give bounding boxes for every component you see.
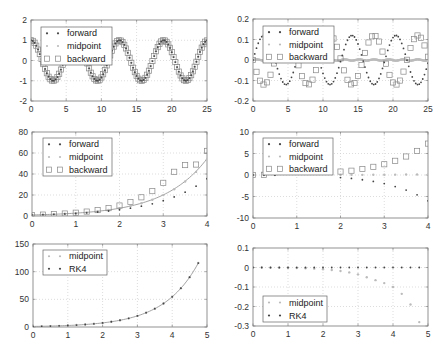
y-tick-label: 20 <box>19 190 29 200</box>
legend-label: midpoint <box>69 251 104 261</box>
y-tick-label: 0 <box>244 263 249 273</box>
x-tick-label: 2 <box>321 329 326 339</box>
y-tick-label: 0.1 <box>237 243 249 253</box>
x-tick-label: 0 <box>31 330 36 340</box>
y-tick-label: 0 <box>23 211 28 221</box>
legend: midpointRK4 <box>43 250 107 275</box>
x-tick-label: 0 <box>251 221 256 231</box>
y-tick-label: 1 <box>22 35 27 45</box>
legend-label: forward <box>289 27 319 37</box>
x-tick-label: 4 <box>391 329 396 339</box>
legend-label: midpoint <box>67 41 102 51</box>
y-tick-label: -5 <box>241 192 249 202</box>
x-tick-label: 0 <box>251 104 256 114</box>
x-tick-label: 5 <box>426 329 431 339</box>
x-tick-label: 3 <box>356 329 361 339</box>
y-tick-label: 10 <box>240 127 250 137</box>
x-tick-label: 4 <box>170 330 175 340</box>
y-tick-label: -0.1 <box>234 76 249 86</box>
legend-label: RK4 <box>69 264 87 274</box>
x-tick-label: 5 <box>64 104 69 114</box>
subplot-exponential-errors: 01234-10-50510forwardmidpointbackward <box>237 127 431 231</box>
y-tick-label: 50 <box>20 294 30 304</box>
legend-label: midpoint <box>289 298 324 308</box>
y-tick-label: 0 <box>244 170 249 180</box>
subplot-midpoint-rk4-errors: 012345-0.3-0.2-0.100.1midpointRK4 <box>234 243 430 339</box>
x-tick-label: 3 <box>382 221 387 231</box>
legend-label: forward <box>289 139 319 149</box>
x-tick-label: 25 <box>423 104 433 114</box>
x-tick-label: 3 <box>161 219 166 229</box>
legend-label: backward <box>69 165 108 175</box>
y-tick-label: 60 <box>19 148 29 158</box>
x-tick-label: 25 <box>202 104 212 114</box>
x-tick-label: 3 <box>135 330 140 340</box>
series-forward <box>252 174 429 202</box>
y-tick-label: 100 <box>15 267 29 277</box>
x-tick-label: 0 <box>29 104 34 114</box>
y-tick-label: -0.2 <box>234 302 249 312</box>
y-tick-label: -2 <box>19 96 27 106</box>
x-tick-label: 4 <box>205 219 210 229</box>
y-tick-label: 40 <box>19 169 29 179</box>
x-tick-label: 10 <box>97 104 107 114</box>
y-tick-label: -0.1 <box>234 282 249 292</box>
y-tick-label: 0.1 <box>237 35 249 45</box>
legend-label: RK4 <box>289 311 307 321</box>
x-tick-label: 2 <box>100 330 105 340</box>
subplot-oscillator-solutions: 0510152025-2-1012forwardmidpointbackward <box>19 15 212 114</box>
legend-label: backward <box>289 52 328 62</box>
legend-label: forward <box>69 139 99 149</box>
x-tick-label: 0 <box>251 329 256 339</box>
y-tick-label: 2 <box>22 15 27 25</box>
x-tick-label: 1 <box>73 219 78 229</box>
y-tick-label: 150 <box>15 239 29 249</box>
x-tick-label: 10 <box>318 104 328 114</box>
legend-label: midpoint <box>69 152 104 162</box>
legend-label: midpoint <box>289 40 324 50</box>
x-tick-label: 20 <box>167 104 177 114</box>
legend-label: backward <box>289 164 328 174</box>
y-tick-label: 80 <box>19 127 29 137</box>
subplot-exponential-solutions: 01234020406080forwardmidpointbackward <box>19 127 210 229</box>
y-tick-label: 0.2 <box>237 14 249 24</box>
x-tick-label: 2 <box>338 221 343 231</box>
legend: midpointRK4 <box>263 296 327 322</box>
legend-label: forward <box>67 28 97 38</box>
x-tick-label: 2 <box>117 219 122 229</box>
x-tick-label: 5 <box>205 330 210 340</box>
legend-label: backward <box>67 54 106 64</box>
y-tick-label: -0.2 <box>234 96 249 106</box>
subplot-midpoint-rk4-solutions: 012345050100150midpointRK4 <box>15 239 210 340</box>
tick-labels: 012345-0.3-0.2-0.100.1 <box>234 243 430 339</box>
x-tick-label: 4 <box>426 221 431 231</box>
x-tick-label: 0 <box>30 219 35 229</box>
y-tick-label: 0 <box>244 55 249 65</box>
x-tick-label: 1 <box>286 329 291 339</box>
x-tick-label: 1 <box>65 330 70 340</box>
figure-canvas: 0510152025-2-1012forwardmidpointbackward… <box>0 0 446 350</box>
x-tick-label: 5 <box>286 104 291 114</box>
subplot-oscillator-errors: 0510152025-0.2-0.100.10.2forwardmidpoint… <box>234 14 433 114</box>
legend: forwardmidpointbackward <box>263 26 334 63</box>
legend-label: midpoint <box>289 152 324 162</box>
x-tick-label: 15 <box>132 104 142 114</box>
y-tick-label: 0 <box>24 322 29 332</box>
legend: forwardmidpointbackward <box>41 27 112 65</box>
x-tick-label: 15 <box>353 104 363 114</box>
y-tick-label: 5 <box>244 149 249 159</box>
legend: forwardmidpointbackward <box>263 138 333 175</box>
x-tick-label: 20 <box>388 104 398 114</box>
x-tick-label: 1 <box>294 221 299 231</box>
y-tick-label: -1 <box>19 76 27 86</box>
y-tick-label: 0 <box>22 56 27 66</box>
y-tick-label: -0.3 <box>234 321 249 331</box>
legend: forwardmidpointbackward <box>43 138 112 176</box>
y-tick-label: -10 <box>237 213 250 223</box>
